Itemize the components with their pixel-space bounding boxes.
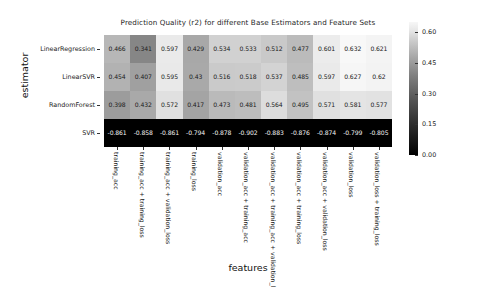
heatmap-cell: 0.473 (209, 91, 235, 119)
heatmap-cell: -0.861 (104, 119, 130, 147)
x-tick-text: validation_acc + validation_loss (322, 152, 329, 251)
y-tick-mark (97, 105, 100, 106)
heatmap-cell: 0.621 (366, 35, 392, 63)
heatmap-cell: -0.861 (156, 119, 182, 147)
x-tick-column: training_acc + training_loss (130, 147, 156, 259)
x-tick-text: validation_loss + training_loss (374, 152, 381, 246)
heatmap-cell: 0.627 (340, 63, 366, 91)
heatmap-cell: 0.341 (130, 35, 156, 63)
heatmap-cell: 0.407 (130, 63, 156, 91)
x-tick-mark (379, 147, 380, 150)
heatmap-cell: -0.799 (340, 119, 366, 147)
y-tick-text: LinearSVR (62, 73, 95, 81)
heatmap-cell: 0.512 (261, 35, 287, 63)
x-tick-column: validation_acc (209, 147, 235, 259)
x-tick-column: training_acc + validation_loss (156, 147, 182, 259)
x-tick-column: validation_acc + training_loss (287, 147, 313, 259)
colorbar-tick-mark (415, 124, 418, 125)
colorbar-tick-text: 0.60 (422, 28, 436, 36)
y-tick-mark (97, 77, 100, 78)
x-tick-mark (117, 147, 118, 150)
x-tick-mark (248, 147, 249, 150)
heatmap-cell: 0.597 (156, 35, 182, 63)
colorbar-tick-mark (415, 63, 418, 64)
colorbar-tick-text: 0.00 (422, 151, 436, 159)
x-tick-text: validation_acc (217, 152, 224, 196)
heatmap-cell: 0.518 (235, 63, 261, 91)
heatmap-grid: 0.4660.3410.5970.4290.5340.5330.5120.477… (104, 35, 392, 147)
heatmap-cell: 0.481 (235, 91, 261, 119)
x-tick-column: training_loss (183, 147, 209, 259)
heatmap-cell: 0.485 (287, 63, 313, 91)
y-tick-text: SVR (82, 129, 95, 137)
x-tick-text: validation_loss (348, 152, 355, 198)
heatmap-cell: 0.537 (261, 63, 287, 91)
x-tick-mark (222, 147, 223, 150)
heatmap-cell: 0.564 (261, 91, 287, 119)
heatmap-cell: -0.902 (235, 119, 261, 147)
heatmap-cell: -0.874 (313, 119, 339, 147)
x-tick-mark (274, 147, 275, 150)
y-axis-tick-labels: LinearRegression LinearSVR RandomForest … (0, 35, 100, 147)
x-axis-label: features (104, 262, 392, 273)
y-tick-label: SVR (0, 119, 100, 147)
y-tick-text: RandomForest (49, 101, 95, 109)
colorbar-tick-text: 0.30 (422, 90, 436, 98)
colorbar-tick-text: 0.45 (422, 59, 436, 67)
y-tick-text: LinearRegression (40, 45, 95, 53)
heatmap-cell: -0.878 (209, 119, 235, 147)
colorbar-tick-mark (415, 32, 418, 33)
heatmap-cell: 0.417 (183, 91, 209, 119)
heatmap-cell: 0.572 (156, 91, 182, 119)
x-tick-text: validation_acc + training_loss (296, 152, 303, 244)
heatmap-cell: -0.858 (130, 119, 156, 147)
heatmap-cell: 0.632 (340, 35, 366, 63)
heatmap-cell: 0.398 (104, 91, 130, 119)
chart-title: Prediction Quality (r2) for different Ba… (104, 18, 392, 27)
colorbar-tick-mark (415, 94, 418, 95)
x-tick-mark (300, 147, 301, 150)
heatmap-cell: -0.876 (287, 119, 313, 147)
heatmap-cell: 0.595 (156, 63, 182, 91)
heatmap-cell: 0.62 (366, 63, 392, 91)
heatmap-cell: 0.601 (313, 35, 339, 63)
heatmap-cell: 0.432 (130, 91, 156, 119)
x-tick-text: training_acc (113, 152, 120, 190)
x-tick-column: validation_acc + validation_loss (313, 147, 339, 259)
x-axis-tick-labels: training_acctraining_acc + training_loss… (104, 147, 392, 259)
x-tick-mark (353, 147, 354, 150)
x-tick-mark (196, 147, 197, 150)
y-tick-mark (97, 49, 100, 50)
heatmap-cell: 0.454 (104, 63, 130, 91)
heatmap-cell: 0.516 (209, 63, 235, 91)
x-tick-mark (327, 147, 328, 150)
heatmap-cell: 0.581 (340, 91, 366, 119)
heatmap-cell: 0.429 (183, 35, 209, 63)
heatmap-cell: -0.883 (261, 119, 287, 147)
heatmap-cell: 0.534 (209, 35, 235, 63)
x-tick-column: validation_acc + training_acc + validati… (261, 147, 287, 259)
colorbar-tick-text: 0.15 (422, 120, 436, 128)
heatmap-cell: 0.577 (366, 91, 392, 119)
heatmap-figure: Prediction Quality (r2) for different Ba… (0, 0, 477, 287)
x-tick-column: training_acc (104, 147, 130, 259)
heatmap-cell: 0.597 (313, 63, 339, 91)
y-tick-label: LinearSVR (0, 63, 100, 91)
x-tick-column: validation_loss (340, 147, 366, 259)
x-tick-text: training_acc + validation_loss (165, 152, 172, 244)
y-tick-label: LinearRegression (0, 35, 100, 63)
x-tick-text: training_acc + training_loss (139, 152, 146, 238)
x-tick-column: validation_acc + training_acc (235, 147, 261, 259)
heatmap-cell: 0.571 (313, 91, 339, 119)
y-tick-label: RandomForest (0, 91, 100, 119)
heatmap-cell: 0.43 (183, 63, 209, 91)
heatmap-cell: 0.466 (104, 35, 130, 63)
heatmap-cell: 0.477 (287, 35, 313, 63)
colorbar-tick-mark (415, 155, 418, 156)
colorbar-gradient (409, 22, 418, 155)
heatmap-cell: -0.805 (366, 119, 392, 147)
colorbar-tick-labels: 0.600.450.300.150.00 (418, 22, 468, 155)
heatmap-cell: 0.533 (235, 35, 261, 63)
x-tick-text: validation_acc + training_acc + validati… (270, 152, 277, 287)
y-tick-mark (97, 133, 100, 134)
